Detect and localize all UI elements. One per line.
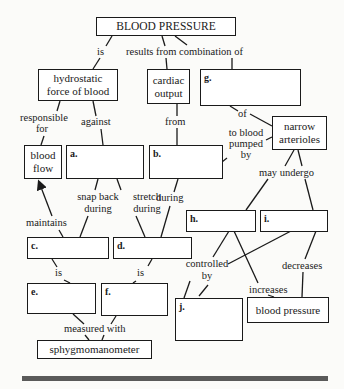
- title-text: BLOOD PRESSURE: [116, 20, 215, 33]
- link-label-snap-back-during: snap back during: [73, 191, 123, 215]
- blank-label-g: g.: [204, 72, 212, 83]
- blood-pressure-text: blood pressure: [256, 304, 320, 317]
- link-label-responsible-for: responsible for: [20, 112, 64, 134]
- blank-label-h: h.: [190, 213, 198, 224]
- blank-box-j[interactable]: j.: [175, 298, 243, 341]
- blank-label-e: e.: [31, 286, 38, 297]
- link-label-is-d: is: [137, 267, 144, 279]
- link-label-results-from: results from combination of: [126, 46, 243, 58]
- blank-label-c: c.: [31, 240, 38, 251]
- controlled-by-text: controlled by: [186, 258, 229, 281]
- blood-flow-text: blood flow: [27, 149, 59, 175]
- sphygmomanometer-node: sphygmomanometer: [37, 340, 152, 359]
- link-label-is-top: is: [97, 46, 104, 58]
- responsible-for-text: responsible for: [20, 112, 68, 134]
- link-label-to-blood-pumped-by: to blood pumped by: [225, 127, 267, 160]
- link-label-from: from: [165, 116, 185, 128]
- link-label-is-c: is: [55, 267, 62, 279]
- blank-label-i: i.: [264, 213, 269, 224]
- blank-box-g[interactable]: g.: [200, 69, 301, 106]
- link-label-against: against: [81, 116, 111, 128]
- hydrostatic-text: hydrostatic force of blood: [41, 72, 115, 98]
- blank-box-d[interactable]: d.: [113, 237, 192, 259]
- blank-label-j: j.: [179, 301, 185, 312]
- blank-box-i[interactable]: i.: [260, 210, 328, 232]
- link-label-may-undergo: may undergo: [259, 167, 314, 179]
- to-blood-pumped-by-text: to blood pumped by: [229, 127, 264, 160]
- cardiac-output-text: cardiac output: [150, 74, 187, 100]
- blank-box-f[interactable]: f.: [101, 283, 168, 316]
- link-label-during: during: [156, 192, 183, 204]
- link-label-maintains: maintains: [26, 217, 67, 229]
- link-label-measured-with: measured with: [64, 323, 126, 335]
- blood-pressure-title-node: BLOOD PRESSURE: [96, 17, 236, 36]
- bottom-divider-bar: [22, 376, 328, 381]
- narrow-arterioles-text: narrow arterioles: [275, 120, 324, 146]
- link-label-increases: increases: [249, 284, 287, 296]
- narrow-arterioles-node: narrow arterioles: [272, 116, 327, 150]
- sphygmomanometer-text: sphygmomanometer: [50, 343, 140, 356]
- cardiac-output-node: cardiac output: [147, 69, 190, 104]
- blank-box-b[interactable]: b.: [149, 145, 223, 179]
- blank-label-a: a.: [70, 148, 78, 159]
- link-label-controlled-by: controlled by: [185, 258, 229, 282]
- link-label-of: of: [238, 108, 247, 120]
- blank-box-e[interactable]: e.: [27, 283, 96, 314]
- blank-label-b: b.: [153, 148, 161, 159]
- blank-box-h[interactable]: h.: [186, 210, 256, 232]
- blood-pressure-node: blood pressure: [247, 297, 329, 323]
- blank-label-f: f.: [105, 286, 111, 297]
- blank-box-a[interactable]: a.: [66, 145, 144, 179]
- blood-flow-node: blood flow: [24, 145, 62, 179]
- hydrostatic-force-node: hydrostatic force of blood: [38, 69, 118, 101]
- snap-back-during-text: snap back during: [77, 191, 119, 214]
- blank-label-d: d.: [117, 240, 125, 251]
- blank-box-c[interactable]: c.: [27, 237, 109, 259]
- link-label-decreases: decreases: [282, 260, 322, 272]
